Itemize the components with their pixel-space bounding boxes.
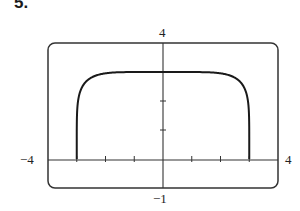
ymax-label: 4	[159, 26, 166, 39]
xmin-label: −4	[20, 153, 34, 166]
ymin-label: −1	[153, 192, 167, 205]
graph-window	[0, 0, 300, 211]
xmax-label: 4	[285, 153, 292, 166]
